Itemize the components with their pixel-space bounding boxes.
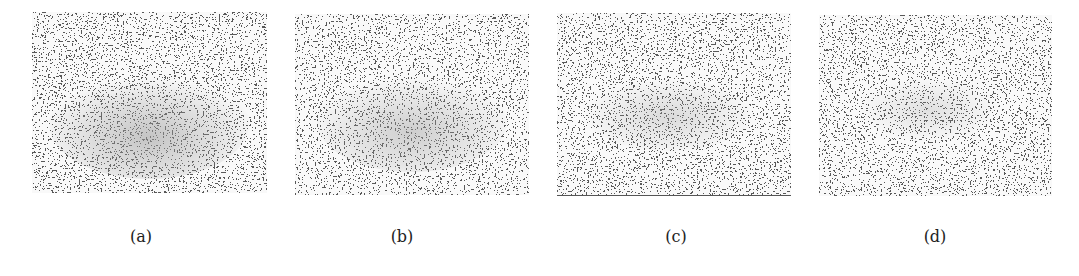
figure: (a) [0,0,1079,276]
panel-b-caption: (b) [372,226,432,248]
speckle-image-c [557,13,791,196]
panel-b-image [295,14,529,195]
speckle-image-d [819,15,1052,196]
panel-d-caption: (d) [905,226,965,248]
panel-c-image [557,13,791,196]
panel-c-caption: (c) [646,226,706,248]
panel-d-image [819,15,1052,196]
speckle-image-a [32,12,267,193]
panel-a-image [32,12,267,193]
panel-a-caption: (a) [111,226,171,248]
speckle-image-b [295,14,529,195]
